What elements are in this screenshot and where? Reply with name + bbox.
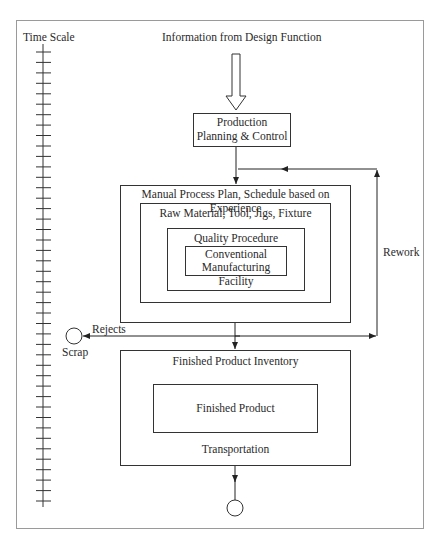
scrap-circle-icon [66,328,82,344]
finished-product-label: Finished Product [154,402,317,416]
raw-material-label: Raw Material, Tool, Jigs, Fixture [141,207,330,221]
ppc-line1: Production [194,116,290,130]
rejects-label: Rejects [92,323,126,336]
finished-product-box: Finished Product [153,384,318,433]
facility-line2: Manufacturing Facility [186,261,286,288]
scrap-label: Scrap [62,346,88,359]
end-circle-icon [227,500,243,516]
transportation-label: Transportation [121,443,350,457]
design-input-arrow-icon [226,54,246,110]
facility-line1: Conventional [186,248,286,262]
time-scale-label: Time Scale [23,31,75,44]
ppc-line2: Planning & Control [194,130,290,144]
rework-label: Rework [383,246,419,259]
ppc-box: Production Planning & Control [193,113,291,147]
design-input-label: Information from Design Function [162,31,321,44]
inventory-label: Finished Product Inventory [121,355,350,369]
facility-box: Conventional Manufacturing Facility [185,246,287,276]
time-scale-axis [36,44,51,507]
quality-label: Quality Procedure [168,232,304,246]
